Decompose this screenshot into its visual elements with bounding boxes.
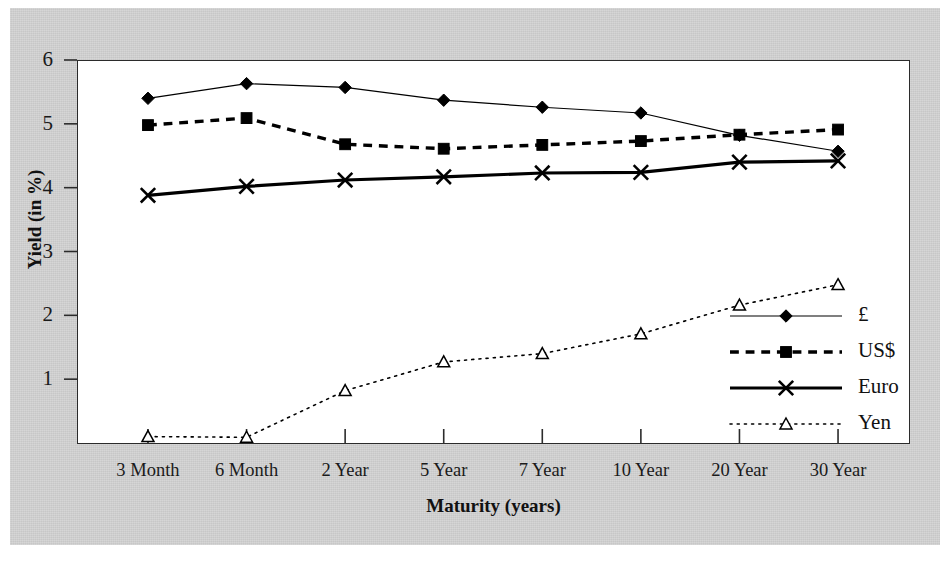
data-point-marker-square [340,139,351,150]
y-tick-label: 2 [19,304,53,325]
data-point-marker-square [438,143,449,154]
y-tick-label: 5 [19,113,53,134]
data-point-marker-square [781,347,792,358]
data-point-marker-diamond [780,310,792,322]
data-point-marker-triangle [536,348,548,359]
legend-label[interactable]: £ [858,304,869,325]
data-point-marker-triangle [438,356,450,367]
data-point-marker-square [241,113,252,124]
x-axis-title: Maturity (years) [77,496,910,515]
data-point-marker-square [143,120,154,131]
legend-swatches [730,310,842,429]
y-tick-label: 1 [19,368,53,389]
data-point-marker-triangle [832,279,844,290]
legend-label[interactable]: US$ [858,340,895,361]
y-tick-label: 6 [19,49,53,70]
data-point-marker-square [635,136,646,147]
data-point-marker-diamond [635,107,647,119]
data-point-marker-diamond [339,81,351,93]
x-tick-label: 30 Year [778,461,898,480]
data-point-marker-square [833,124,844,135]
data-point-marker-square [734,129,745,140]
legend-swatch-euro[interactable] [730,381,842,395]
legend-label[interactable]: Euro [858,376,899,397]
data-point-marker-triangle [733,299,745,310]
data-point-marker-triangle [142,431,154,442]
series-yen [142,279,844,442]
y-axis-ticks [64,60,77,379]
data-point-marker-square [537,139,548,150]
legend-swatch-yen[interactable] [730,418,842,429]
legend-label[interactable]: Yen [858,412,891,433]
series-euro [141,154,845,203]
data-point-marker-triangle [339,385,351,396]
legend-swatch-gbp[interactable] [730,310,842,322]
data-point-marker-diamond [142,92,154,104]
y-axis-title: Yield (in %) [25,140,44,300]
data-point-marker-triangle [635,328,647,339]
data-point-marker-diamond [438,94,450,106]
data-point-marker-diamond [240,77,252,89]
series-usd [143,113,844,154]
legend-swatch-usd[interactable] [730,347,842,358]
chart-figure: 1234563 Month6 Month2 Year5 Year7 Year10… [0,0,952,561]
data-point-marker-diamond [536,101,548,113]
